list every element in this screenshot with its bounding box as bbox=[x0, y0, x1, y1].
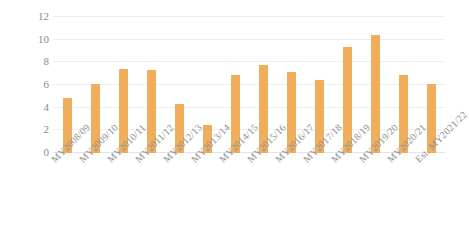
gridline bbox=[53, 16, 445, 17]
y-axis-tick-label: 4 bbox=[27, 102, 49, 113]
y-axis-tick-labels: 024681012 bbox=[25, 17, 49, 153]
y-axis-tick-label: 8 bbox=[27, 56, 49, 67]
gridline bbox=[53, 107, 445, 108]
y-axis-tick-label: 6 bbox=[27, 79, 49, 90]
y-axis-tick-label: 0 bbox=[27, 147, 49, 158]
y-axis-tick-label: 12 bbox=[27, 11, 49, 22]
gridline bbox=[53, 84, 445, 85]
x-axis-tick-labels: MY2008/09MY2009/10MY2010/11MY2011/12MY20… bbox=[53, 153, 453, 226]
y-axis-tick-label: 10 bbox=[27, 34, 49, 45]
gridline bbox=[53, 61, 445, 62]
y-axis-tick-label: 2 bbox=[27, 124, 49, 135]
gridline bbox=[53, 39, 445, 40]
